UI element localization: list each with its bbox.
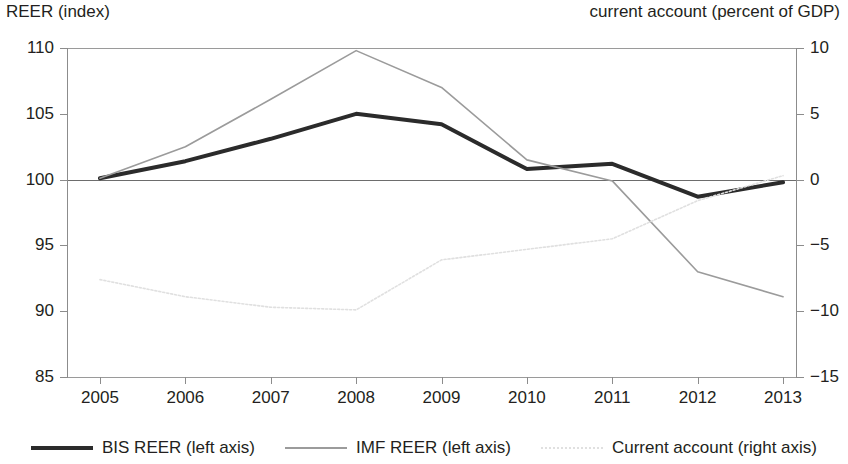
left-axis-tick-label: 110 bbox=[6, 38, 54, 58]
left-axis-tick-label: 105 bbox=[6, 104, 54, 124]
legend-item[interactable]: IMF REER (left axis) bbox=[285, 438, 511, 458]
left-axis-tick bbox=[60, 311, 67, 312]
x-axis-tick bbox=[612, 377, 613, 384]
right-axis-spine bbox=[796, 48, 797, 378]
left-axis-tick bbox=[60, 245, 67, 246]
x-axis-tick bbox=[271, 377, 272, 384]
right-axis-tick-label: 0 bbox=[810, 170, 848, 190]
legend-label: Current account (right axis) bbox=[612, 438, 817, 458]
left-axis-tick bbox=[60, 180, 67, 181]
legend-item[interactable]: BIS REER (left axis) bbox=[31, 438, 255, 458]
right-axis-tick bbox=[797, 180, 804, 181]
right-axis-tick-label: 10 bbox=[810, 38, 848, 58]
x-axis-tick-label: 2011 bbox=[577, 388, 647, 408]
x-axis-tick bbox=[100, 377, 101, 384]
left-axis-tick-label: 90 bbox=[6, 301, 54, 321]
reer-current-account-chart: REER (index) current account (percent of… bbox=[0, 0, 848, 464]
left-axis-tick bbox=[60, 48, 67, 49]
legend-label: BIS REER (left axis) bbox=[102, 438, 255, 458]
x-axis-tick-label: 2005 bbox=[65, 388, 135, 408]
left-axis-tick-label: 95 bbox=[6, 235, 54, 255]
right-axis-tick-label: 5 bbox=[810, 104, 848, 124]
x-axis-tick-label: 2009 bbox=[407, 388, 477, 408]
legend-item[interactable]: Current account (right axis) bbox=[541, 438, 817, 458]
chart-legend: BIS REER (left axis)IMF REER (left axis)… bbox=[0, 432, 848, 464]
x-axis-tick bbox=[356, 377, 357, 384]
plot-area bbox=[67, 48, 797, 377]
legend-swatch bbox=[31, 446, 93, 450]
x-axis-tick bbox=[527, 377, 528, 384]
x-axis-tick bbox=[442, 377, 443, 384]
x-axis-tick bbox=[783, 377, 784, 384]
left-axis-tick bbox=[60, 377, 67, 378]
gridline bbox=[67, 180, 797, 181]
gridline bbox=[67, 377, 797, 378]
x-axis-tick bbox=[185, 377, 186, 384]
right-axis-tick bbox=[797, 311, 804, 312]
x-axis-tick-label: 2007 bbox=[236, 388, 306, 408]
right-axis-tick bbox=[797, 245, 804, 246]
right-axis-tick bbox=[797, 114, 804, 115]
right-axis-tick bbox=[797, 377, 804, 378]
x-axis-tick-label: 2012 bbox=[663, 388, 733, 408]
x-axis-tick-label: 2010 bbox=[492, 388, 562, 408]
right-axis-tick-label: −5 bbox=[810, 235, 848, 255]
left-axis-title: REER (index) bbox=[6, 2, 110, 22]
x-axis-tick bbox=[698, 377, 699, 384]
x-axis-tick-label: 2008 bbox=[321, 388, 391, 408]
legend-label: IMF REER (left axis) bbox=[356, 438, 511, 458]
gridline bbox=[67, 48, 797, 49]
right-axis-tick-label: −15 bbox=[810, 367, 848, 387]
left-axis-spine bbox=[67, 48, 68, 378]
x-axis-tick-label: 2006 bbox=[150, 388, 220, 408]
right-axis-tick-label: −10 bbox=[810, 301, 848, 321]
legend-swatch bbox=[541, 447, 603, 449]
right-axis-tick bbox=[797, 48, 804, 49]
legend-swatch bbox=[285, 447, 347, 449]
left-axis-tick-label: 100 bbox=[6, 170, 54, 190]
left-axis-tick bbox=[60, 114, 67, 115]
left-axis-tick-label: 85 bbox=[6, 367, 54, 387]
right-axis-title: current account (percent of GDP) bbox=[590, 2, 840, 22]
x-axis-tick-label: 2013 bbox=[748, 388, 818, 408]
